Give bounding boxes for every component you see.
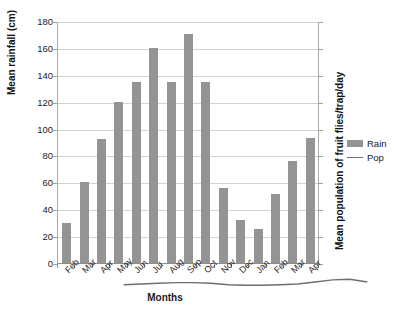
y-axis-tick-mark	[52, 103, 57, 104]
y-axis-tick-label: 140	[37, 71, 53, 81]
y-axis-right-tick-mark	[318, 130, 323, 131]
y-axis-tick-mark	[52, 237, 57, 238]
legend-item-pop: Pop	[347, 150, 393, 164]
y-axis-right-tick-mark	[318, 49, 323, 50]
legend-label-rain: Rain	[367, 138, 387, 149]
x-axis-title: Months	[0, 292, 330, 303]
y-axis-tick-mark	[52, 76, 57, 77]
x-axis-tick-mark	[57, 264, 58, 268]
chart-legend: Rain Pop	[347, 136, 393, 164]
y-axis-tick-mark	[52, 49, 57, 50]
y-axis-right-tick-mark	[318, 103, 323, 104]
y-axis-tick-mark	[52, 210, 57, 211]
bar	[97, 139, 106, 263]
legend-label-pop: Pop	[367, 152, 384, 163]
y-axis-tick-mark	[52, 22, 57, 23]
y-axis-tick-label: 120	[37, 98, 53, 108]
legend-bar-swatch-icon	[347, 140, 363, 147]
y-axis-tick-mark	[52, 156, 57, 157]
y-axis-right-tick-mark	[318, 183, 323, 184]
rainfall-fruitfly-combo-chart: Mean rainfall (cm) Mean population of fr…	[0, 0, 394, 313]
gridline	[58, 22, 318, 23]
y-axis-right-tick-mark	[318, 156, 323, 157]
legend-item-rain: Rain	[347, 136, 393, 150]
bar	[62, 223, 71, 263]
y-axis-right-line	[318, 22, 319, 265]
y-axis-tick-label: 100	[37, 125, 53, 135]
plot-area	[57, 22, 318, 264]
y-axis-tick-label: 180	[37, 17, 53, 27]
y-axis-right-tick-mark	[318, 76, 323, 77]
y-axis-tick-mark	[52, 130, 57, 131]
bar	[80, 182, 89, 263]
y-axis-tick-label: 160	[37, 44, 53, 54]
line-series-pop	[115, 44, 376, 286]
y-axis-right-tick-mark	[318, 237, 323, 238]
y-axis-right-tick-mark	[318, 210, 323, 211]
legend-line-swatch-icon	[347, 157, 363, 158]
y-axis-right-tick-mark	[318, 22, 323, 23]
y-axis-tick-mark	[52, 183, 57, 184]
y-axis-left-title: Mean rainfall (cm)	[6, 10, 17, 95]
